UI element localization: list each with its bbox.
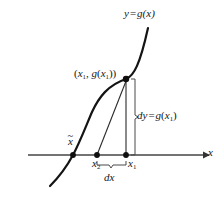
tangent-line	[97, 76, 128, 155]
x2-subscript: 2	[97, 163, 100, 170]
curve-label-eq: =	[129, 7, 137, 19]
figure-container: y=g(x) (x1, g(x1)) dy=g(x1) dx x1 x2 ~x …	[0, 0, 218, 199]
dx-brace	[97, 161, 126, 168]
x-axis	[28, 151, 210, 158]
point-coordinate-label: (x1, g(x1))	[74, 68, 116, 81]
curve-label-arg: (x)	[143, 7, 155, 19]
x-tilde-wrap: ~x	[68, 136, 73, 147]
dy-label: dy=g(x1)	[137, 110, 177, 123]
tilde-accent-icon: ~	[68, 131, 74, 141]
x-tilde-dot	[70, 152, 76, 158]
dy-close-paren: )	[173, 109, 177, 121]
x-axis-label-text: x	[208, 146, 213, 158]
x1-axis-label: x1	[128, 158, 136, 171]
dx-x: x	[110, 171, 115, 183]
dx-label: dx	[104, 172, 114, 183]
x-axis-label: x	[208, 147, 213, 158]
x1-subscript: 1	[133, 163, 136, 170]
x2-axis-label: x2	[92, 158, 100, 171]
curve-point-dot	[123, 76, 129, 82]
figure-canvas	[0, 0, 218, 199]
curve-label: y=g(x)	[124, 8, 155, 19]
dy-eq: =	[147, 109, 155, 121]
point-close-parens: ))	[109, 67, 116, 79]
x-tilde-label: ~x	[68, 136, 73, 147]
